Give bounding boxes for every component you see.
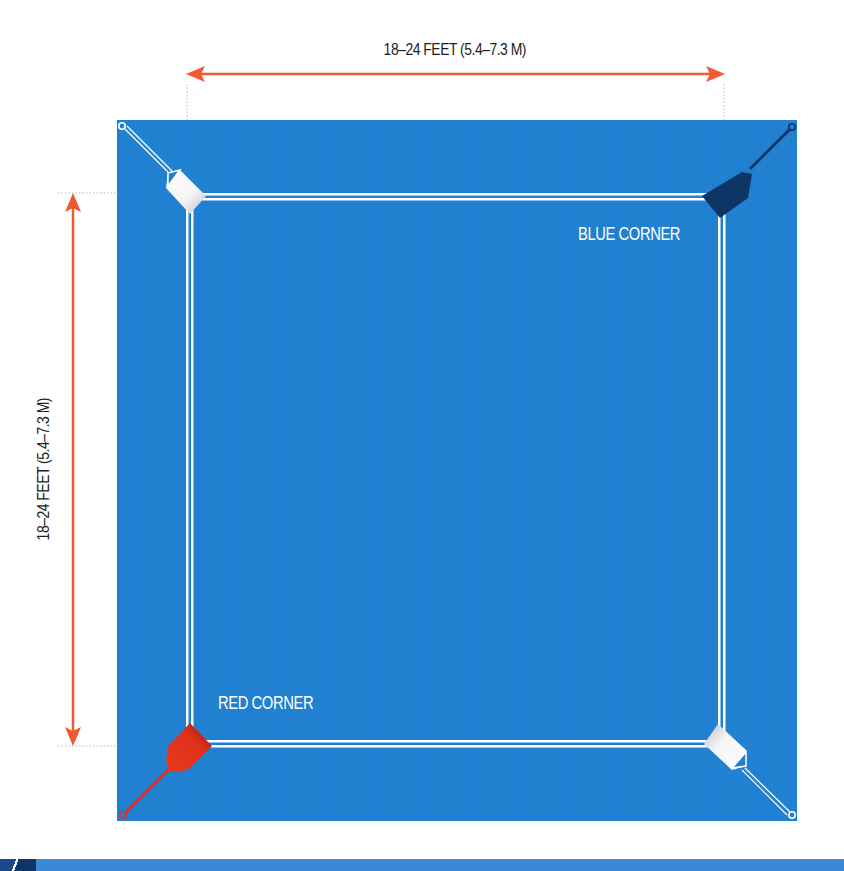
height-dimension-label: 18–24 FEET (5.4–7.3 M) xyxy=(34,398,54,540)
guide-lines xyxy=(58,84,724,746)
corner-post-blue xyxy=(702,124,795,218)
width-dimension-label: 18–24 FEET (5.4–7.3 M) xyxy=(384,40,526,60)
bottom-banner-accent xyxy=(0,859,36,871)
blue-corner-label: BLUE CORNER xyxy=(578,224,680,245)
ring-ropes xyxy=(186,193,726,748)
height-dimension-arrow xyxy=(65,193,81,746)
corner-post-top-left xyxy=(119,123,206,214)
width-dimension-arrow xyxy=(186,66,725,82)
red-corner-label: RED CORNER xyxy=(218,693,313,714)
bottom-banner xyxy=(0,859,844,871)
corner-post-bottom-right xyxy=(704,724,795,818)
corner-post-red xyxy=(120,723,212,818)
ring-diagram-graphics xyxy=(0,0,844,871)
